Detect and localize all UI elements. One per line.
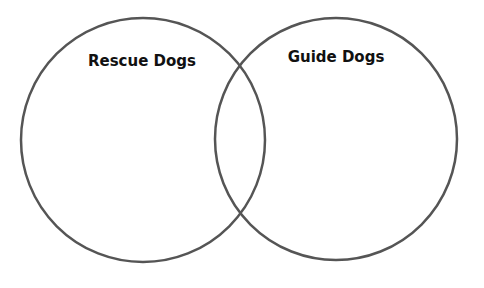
label-guide-dogs: Guide Dogs	[288, 48, 385, 66]
venn-svg: Rescue Dogs Guide Dogs	[0, 0, 484, 288]
label-rescue-dogs: Rescue Dogs	[88, 52, 196, 70]
venn-diagram: Rescue Dogs Guide Dogs	[0, 0, 484, 288]
